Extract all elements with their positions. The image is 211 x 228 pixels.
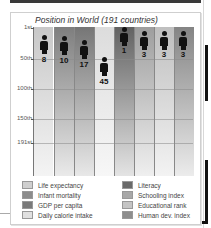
- page-right-rule: [203, 0, 204, 228]
- right-margin-hook: [201, 221, 208, 224]
- y-tick-150th: 150th: [10, 115, 32, 121]
- gridline-100th: [34, 89, 193, 90]
- person-icon: [178, 31, 188, 50]
- person-icon: [139, 31, 149, 50]
- right-margin-bar: [205, 45, 208, 101]
- gridline-150th: [34, 119, 193, 120]
- rank-label: 10: [56, 56, 72, 65]
- person-icon: [99, 57, 109, 76]
- top-border-bar: [10, 0, 201, 3]
- legend-swatch: [22, 211, 33, 219]
- legend-item: GDP per capita: [22, 201, 82, 209]
- legend-label: Literacy: [138, 182, 161, 189]
- legend-label: Life expectancy: [38, 182, 83, 189]
- legend-label: Educational rank: [138, 202, 186, 209]
- rank-label: 3: [175, 50, 191, 59]
- rank-label: 8: [36, 55, 52, 64]
- rank-label: 45: [96, 77, 112, 86]
- person-icon: [79, 40, 89, 59]
- legend-item: Educational rank: [122, 201, 186, 209]
- legend-item: Daily calorie intake: [22, 211, 93, 219]
- rank-label: 17: [76, 60, 92, 69]
- tick-mark: [31, 59, 34, 60]
- y-tick-50th: 50th: [10, 55, 32, 61]
- legend-item: Schooling index: [122, 191, 184, 199]
- person-icon: [59, 36, 69, 55]
- right-margin-bar: [205, 160, 208, 224]
- y-axis: [33, 27, 34, 176]
- legend-swatch: [122, 181, 133, 189]
- y-tick-100th: 100th: [10, 85, 32, 91]
- legend-item: Infant mortality: [22, 191, 81, 199]
- legend-swatch: [122, 211, 133, 219]
- person-icon: [159, 31, 169, 50]
- tick-mark: [31, 143, 34, 144]
- legend-label: Schooling index: [138, 192, 184, 199]
- rank-label: 3: [156, 50, 172, 59]
- chart-title: Position in World (191 countries): [35, 15, 158, 25]
- legend-swatch: [22, 201, 33, 209]
- legend-item: Human dev. index: [122, 211, 190, 219]
- rank-label: 3: [136, 50, 152, 59]
- legend-swatch: [122, 191, 133, 199]
- tick-mark: [31, 28, 34, 29]
- legend-item: Life expectancy: [22, 181, 83, 189]
- legend-label: Infant mortality: [38, 192, 81, 199]
- legend-label: Human dev. index: [138, 212, 190, 219]
- tick-mark: [31, 119, 34, 120]
- tick-mark: [31, 89, 34, 90]
- y-tick-1st: 1st: [10, 24, 32, 30]
- person-icon: [119, 27, 129, 46]
- legend-swatch: [22, 191, 33, 199]
- y-tick-191st: 191st: [10, 139, 32, 145]
- column-daily-calorie-intake: [94, 27, 114, 176]
- legend-item: Literacy: [122, 181, 161, 189]
- gridline-191st: [34, 143, 193, 144]
- legend-swatch: [22, 181, 33, 189]
- legend-label: Daily calorie intake: [38, 212, 93, 219]
- person-icon: [39, 35, 49, 54]
- rank-label: 1: [116, 46, 132, 55]
- legend-swatch: [122, 201, 133, 209]
- legend-label: GDP per capita: [38, 202, 82, 209]
